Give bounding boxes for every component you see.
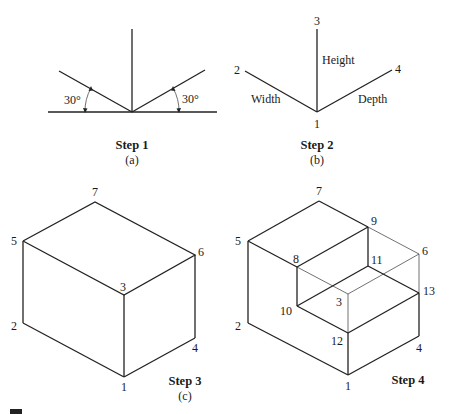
point-1-label: 1: [314, 117, 320, 131]
panel-step-3: 7 5 6 3 2 4 1 Step 3 (c): [11, 185, 204, 403]
edge-5-8: [248, 241, 297, 267]
point-6-label: 6: [198, 245, 204, 259]
depth-label: Depth: [358, 92, 387, 106]
step-4-label: Step 4: [392, 373, 426, 387]
edge-1-4: [124, 338, 195, 377]
edge-12-13: [348, 293, 419, 333]
point-4-label: 4: [395, 62, 401, 76]
point-12-label: 12: [331, 334, 343, 348]
point-4-label: 4: [416, 341, 422, 355]
point-2-label: 2: [11, 319, 17, 333]
point-13-label: 13: [423, 284, 435, 298]
point-10-label: 10: [280, 304, 292, 318]
point-3-label: 3: [336, 295, 342, 309]
panel-step-1: 30° 30° Step 1 (a): [48, 29, 217, 167]
point-8-label: 8: [293, 252, 299, 266]
point-11-label: 11: [371, 253, 383, 267]
edge-11-13: [368, 266, 419, 293]
point-2-label: 2: [234, 63, 240, 77]
width-label: Width: [251, 92, 281, 106]
angle-label-left: 30°: [64, 93, 81, 107]
point-7-label: 7: [316, 184, 322, 198]
edge-10-12: [297, 306, 348, 333]
point-1-label: 1: [345, 379, 351, 393]
step-1-label: Step 1: [116, 138, 149, 152]
angle-label-right: 30°: [182, 92, 199, 106]
section-marker: [10, 409, 22, 414]
point-5-label: 5: [11, 234, 17, 248]
point-3-label: 3: [314, 14, 320, 28]
edge-8-9: [297, 227, 368, 267]
edge-1-4: [348, 336, 419, 375]
edge-10-11: [297, 266, 368, 306]
step-3-label: Step 3: [169, 374, 202, 388]
isometric-drawing-steps: 30° 30° Step 1 (a) 3 2 4 1 Height Width …: [0, 0, 451, 414]
point-5-label: 5: [235, 234, 241, 248]
caption-a: (a): [125, 153, 138, 167]
top-face: [23, 202, 195, 295]
caption-c: (c): [178, 389, 191, 403]
panel-step-4: 7 5 9 6 8 11 13 3 10 2 12 4 1 Step 4: [235, 184, 435, 393]
construction-8-3: [297, 267, 348, 294]
caption-b: (b): [310, 153, 324, 167]
edge-7-9: [319, 201, 368, 227]
edge-5-7: [248, 201, 319, 241]
step-2-label: Step 2: [301, 138, 334, 152]
point-3-label: 3: [120, 280, 126, 294]
point-7-label: 7: [92, 185, 98, 199]
edge-2-1: [248, 323, 348, 375]
point-6-label: 6: [422, 244, 428, 258]
construction-9-6: [368, 227, 419, 254]
height-label: Height: [322, 53, 355, 67]
point-1-label: 1: [121, 380, 127, 394]
panel-step-2: 3 2 4 1 Height Width Depth Step 2 (b): [234, 14, 401, 167]
edge-2-1: [23, 323, 124, 377]
point-9-label: 9: [371, 214, 377, 228]
point-4-label: 4: [192, 341, 198, 355]
point-2-label: 2: [235, 319, 241, 333]
